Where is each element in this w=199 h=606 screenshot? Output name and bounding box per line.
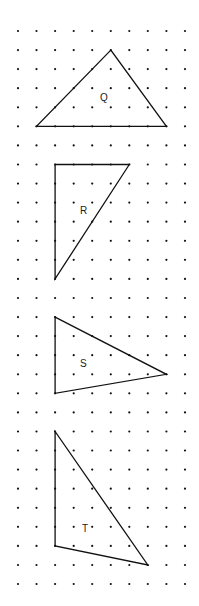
grid-dot (35, 183, 37, 185)
grid-dot (91, 106, 93, 108)
grid-dot (165, 335, 167, 337)
grid-dot (73, 469, 75, 471)
grid-dot (110, 430, 112, 432)
grid-dot (184, 144, 186, 146)
grid-dot (110, 564, 112, 566)
grid-dot (73, 411, 75, 413)
grid-dot (184, 488, 186, 490)
grid-dot (184, 354, 186, 356)
grid-dot (110, 583, 112, 585)
grid-dot (147, 526, 149, 528)
grid-dot (91, 564, 93, 566)
grid-dot (17, 545, 19, 547)
grid-dot (17, 68, 19, 70)
grid-dot (184, 335, 186, 337)
grid-dot (110, 335, 112, 337)
grid-dot (165, 411, 167, 413)
grid-dot (165, 240, 167, 242)
grid-dot (147, 411, 149, 413)
grid-dot (128, 526, 130, 528)
grid-dot (17, 354, 19, 356)
grid-dot (184, 469, 186, 471)
grid-dot (165, 163, 167, 165)
grid-dot (73, 373, 75, 375)
grid-dot (165, 354, 167, 356)
grid-dot (165, 449, 167, 451)
grid-dot (35, 49, 37, 51)
dot-grid (17, 30, 186, 585)
grid-dot (128, 583, 130, 585)
grid-dot (17, 430, 19, 432)
grid-dot (91, 392, 93, 394)
grid-dot (73, 316, 75, 318)
grid-dot (91, 49, 93, 51)
grid-dot (147, 221, 149, 223)
grid-dot (147, 430, 149, 432)
grid-dot (147, 583, 149, 585)
grid-dot (73, 297, 75, 299)
grid-dot (184, 125, 186, 127)
grid-dot (147, 202, 149, 204)
grid-dot (35, 240, 37, 242)
grid-dot (128, 564, 130, 566)
grid-dot (73, 354, 75, 356)
grid-dot (128, 392, 130, 394)
grid-dot (165, 202, 167, 204)
grid-dot (165, 488, 167, 490)
grid-dot (17, 163, 19, 165)
grid-dot (91, 545, 93, 547)
triangle-label-t: T (82, 523, 88, 534)
grid-dot (91, 183, 93, 185)
grid-dot (110, 259, 112, 261)
grid-dot (91, 316, 93, 318)
grid-dot (35, 30, 37, 32)
grid-dot (17, 564, 19, 566)
grid-dot (91, 297, 93, 299)
grid-dot (165, 526, 167, 528)
grid-dot (147, 87, 149, 89)
grid-dot (110, 221, 112, 223)
grid-dot (35, 411, 37, 413)
grid-dot (128, 430, 130, 432)
grid-dot (147, 488, 149, 490)
grid-dot (128, 316, 130, 318)
grid-dot (147, 316, 149, 318)
triangles: QRST (37, 50, 167, 565)
grid-dot (110, 354, 112, 356)
grid-dot (110, 373, 112, 375)
grid-dot (54, 30, 56, 32)
grid-dot (184, 564, 186, 566)
grid-dot (147, 163, 149, 165)
grid-dot (17, 259, 19, 261)
grid-dot (147, 392, 149, 394)
grid-dot (110, 469, 112, 471)
grid-dot (35, 373, 37, 375)
grid-dot (73, 430, 75, 432)
grid-dot (17, 507, 19, 509)
grid-dot (91, 144, 93, 146)
grid-dot (17, 392, 19, 394)
grid-dot (73, 392, 75, 394)
grid-dot (91, 449, 93, 451)
grid-dot (128, 106, 130, 108)
grid-dot (17, 411, 19, 413)
grid-dot (128, 202, 130, 204)
grid-dot (165, 221, 167, 223)
grid-dot (165, 68, 167, 70)
grid-dot (165, 87, 167, 89)
grid-dot (73, 507, 75, 509)
grid-dot (128, 68, 130, 70)
grid-dot (17, 30, 19, 32)
grid-dot (184, 411, 186, 413)
grid-dot (17, 183, 19, 185)
grid-dot (73, 564, 75, 566)
grid-dot (165, 392, 167, 394)
grid-dot (91, 373, 93, 375)
grid-dot (110, 392, 112, 394)
grid-dot (17, 583, 19, 585)
grid-dot (165, 259, 167, 261)
grid-dot (35, 221, 37, 223)
grid-dot (165, 106, 167, 108)
grid-dot (17, 278, 19, 280)
grid-dot (91, 583, 93, 585)
